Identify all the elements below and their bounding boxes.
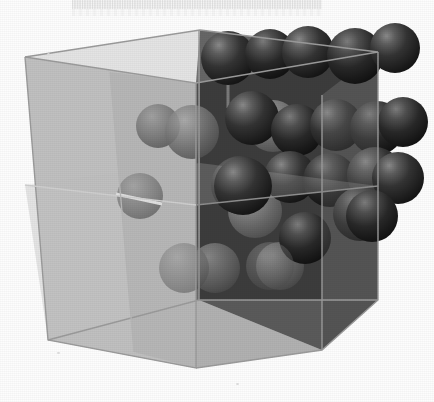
atom-sphere-interior [246,242,294,290]
atom-sphere-interior [159,243,209,293]
atom-sphere-exterior [214,157,272,215]
atom-sphere-exterior [225,91,279,145]
atom-sphere-interior [165,105,219,159]
scan-speck [236,383,239,385]
unit-cell-illustration [0,0,434,402]
atom-sphere-exterior [282,26,334,78]
scan-speck [47,53,50,56]
scan-speck [57,352,60,354]
atom-sphere-exterior [378,97,428,147]
figure-root [0,0,434,402]
atom-sphere-exterior [346,190,398,242]
